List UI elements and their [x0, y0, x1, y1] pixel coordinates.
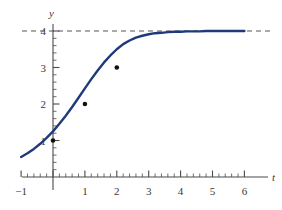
- data-point-marker: [83, 102, 88, 107]
- x-tick-label: 1: [82, 185, 88, 197]
- x-tick-label: 6: [242, 185, 248, 197]
- y-tick-label: 4: [41, 25, 47, 37]
- x-tick-label: −1: [15, 185, 27, 197]
- data-point-marker: [115, 65, 120, 70]
- x-tick-label: 3: [146, 185, 152, 197]
- y-tick-label: 2: [41, 98, 47, 110]
- data-point-marker: [51, 138, 56, 143]
- x-tick-label: 5: [210, 185, 216, 197]
- y-axis-label: y: [48, 7, 54, 19]
- x-tick-label: 2: [114, 185, 120, 197]
- y-tick-label: 3: [41, 62, 47, 74]
- logistic-curve-chart: −1123456 1234 t y: [0, 0, 282, 210]
- chart-figure: −1123456 1234 t y: [0, 0, 282, 210]
- x-tick-label: 4: [178, 185, 184, 197]
